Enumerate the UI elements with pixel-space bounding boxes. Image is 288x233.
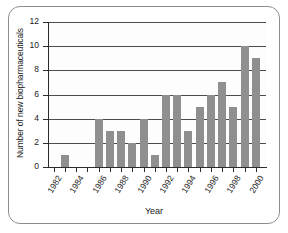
chart-figure: Number of new biopharmaceuticals 0246810…: [0, 0, 288, 233]
gridline: [48, 46, 266, 47]
bar: [162, 95, 170, 168]
bar: [173, 95, 181, 168]
bar: [241, 46, 249, 167]
bar: [117, 131, 125, 167]
bar: [106, 131, 114, 167]
x-tick-mark: [188, 168, 189, 172]
bar: [218, 82, 226, 167]
bar: [184, 131, 192, 167]
x-axis-label: Year: [38, 206, 270, 216]
x-tick-mark: [155, 168, 156, 172]
bar: [95, 119, 103, 167]
y-tick-mark: [43, 143, 48, 144]
x-tick-mark: [65, 168, 66, 172]
x-tick-mark: [233, 168, 234, 172]
plot-area: [48, 22, 266, 167]
x-tick-mark: [166, 168, 167, 172]
bar: [128, 143, 136, 167]
x-tick-mark: [54, 168, 55, 172]
bar: [151, 155, 159, 167]
x-tick-mark: [245, 168, 246, 172]
bar: [196, 107, 204, 167]
y-tick-label: 0: [19, 162, 39, 171]
x-tick-mark: [144, 168, 145, 172]
x-tick-mark: [110, 168, 111, 172]
y-tick-mark: [43, 22, 48, 23]
y-tick-label: 10: [19, 41, 39, 50]
y-tick-label: 6: [19, 90, 39, 99]
bar: [140, 119, 148, 167]
x-tick-mark: [76, 168, 77, 172]
y-tick-label: 8: [19, 65, 39, 74]
bar: [229, 107, 237, 167]
x-tick-mark: [211, 168, 212, 172]
x-tick-mark: [132, 168, 133, 172]
x-tick-mark: [177, 168, 178, 172]
x-tick-mark: [87, 168, 88, 172]
y-tick-mark: [43, 167, 48, 168]
y-tick-mark: [43, 95, 48, 96]
y-tick-mark: [43, 119, 48, 120]
x-tick-mark: [256, 168, 257, 172]
gridline: [48, 95, 266, 96]
gridline: [48, 22, 266, 23]
y-tick-mark: [43, 70, 48, 71]
y-tick-label: 12: [19, 17, 39, 26]
y-tick-label: 4: [19, 114, 39, 123]
y-tick-mark: [43, 46, 48, 47]
x-tick-mark: [99, 168, 100, 172]
bar: [61, 155, 69, 167]
x-tick-mark: [200, 168, 201, 172]
bar: [252, 58, 260, 167]
x-tick-mark: [121, 168, 122, 172]
bar: [207, 95, 215, 168]
y-axis-line: [48, 22, 49, 168]
x-tick-mark: [222, 168, 223, 172]
y-tick-label: 2: [19, 138, 39, 147]
gridline: [48, 70, 266, 71]
